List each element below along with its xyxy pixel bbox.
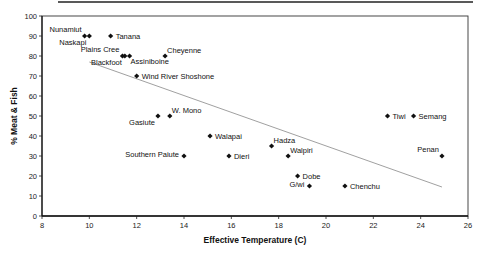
x-tick-label: 12	[132, 221, 140, 230]
data-point: G/wi	[289, 180, 312, 189]
y-tick-label: 60	[29, 92, 37, 101]
point-label: G/wi	[289, 180, 304, 189]
point-label: Semang	[419, 112, 447, 121]
y-tick-label: 40	[29, 132, 37, 141]
point-label: Walpiri	[290, 146, 313, 155]
x-tick-label: 22	[369, 221, 377, 230]
x-tick-label: 26	[464, 221, 472, 230]
data-point: Chenchu	[342, 182, 380, 191]
y-axis-title: % Meat & Fish	[9, 87, 19, 145]
diamond-marker-icon	[207, 133, 212, 138]
point-label: Chenchu	[350, 182, 380, 191]
point-label: Cheyenne	[167, 46, 201, 55]
diamond-marker-icon	[87, 33, 92, 38]
point-label: Southern Paiute	[125, 150, 179, 159]
point-label: Tanana	[116, 32, 141, 41]
y-axis: 0102030405060708090100	[24, 12, 42, 221]
data-points: NunamiutNaskapiTananaPlains CreeBlackfoo…	[49, 25, 446, 191]
diamond-marker-icon	[181, 153, 186, 158]
data-point: Wind River Shoshone	[134, 72, 214, 81]
diamond-marker-icon	[439, 153, 444, 158]
point-label: Dieri	[234, 152, 250, 161]
point-label: Blackfoot	[91, 58, 123, 67]
x-tick-label: 8	[40, 221, 44, 230]
data-point: Nunamiut	[49, 25, 87, 39]
point-label: Hadza	[274, 136, 297, 145]
y-tick-label: 10	[29, 192, 37, 201]
diamond-marker-icon	[226, 153, 231, 158]
y-tick-label: 70	[29, 72, 37, 81]
diamond-marker-icon	[155, 113, 160, 118]
data-point: W. Mono	[167, 106, 201, 119]
x-tick-label: 18	[274, 221, 282, 230]
point-label: Walapai	[215, 132, 242, 141]
data-point: Walapai	[207, 132, 242, 141]
y-tick-label: 30	[29, 152, 37, 161]
y-tick-label: 90	[29, 32, 37, 41]
x-tick-label: 14	[180, 221, 188, 230]
x-tick-label: 10	[85, 221, 93, 230]
point-label: Wind River Shoshone	[142, 72, 215, 81]
y-tick-label: 80	[29, 52, 37, 61]
data-point: Tanana	[108, 32, 141, 41]
diamond-marker-icon	[385, 113, 390, 118]
data-point: Plains Cree	[81, 45, 125, 59]
data-point: Dieri	[226, 152, 249, 161]
diamond-marker-icon	[411, 113, 416, 118]
point-label: W. Mono	[172, 106, 202, 115]
diamond-marker-icon	[342, 183, 347, 188]
diamond-marker-icon	[295, 173, 300, 178]
point-label: Dobe	[303, 172, 321, 181]
x-tick-label: 20	[322, 221, 330, 230]
y-tick-label: 0	[33, 212, 37, 221]
point-label: Penan	[417, 145, 439, 154]
data-point: Southern Paiute	[125, 150, 186, 159]
scatter-chart: 0102030405060708090100 81012141618202224…	[0, 0, 484, 257]
x-axis-title: Effective Temperature (C)	[204, 235, 307, 245]
point-label: Plains Cree	[81, 45, 120, 54]
data-point: Penan	[417, 145, 444, 159]
x-axis: 8101214161820222426	[40, 216, 472, 230]
y-tick-label: 50	[29, 112, 37, 121]
data-point: Semang	[411, 112, 447, 121]
point-label: Tiwi	[393, 112, 406, 121]
data-point: Assiniboine	[127, 53, 169, 66]
point-label: Assiniboine	[131, 57, 169, 66]
y-tick-label: 100	[24, 12, 37, 21]
data-point: Gasiute	[129, 113, 160, 127]
data-point: Tiwi	[385, 112, 406, 121]
diamond-marker-icon	[307, 183, 312, 188]
x-tick-label: 16	[227, 221, 235, 230]
x-tick-label: 24	[416, 221, 424, 230]
point-label: Nunamiut	[49, 25, 82, 34]
data-point: Walpiri	[286, 146, 314, 159]
y-tick-label: 20	[29, 172, 37, 181]
point-label: Gasiute	[129, 118, 155, 127]
diamond-marker-icon	[108, 33, 113, 38]
